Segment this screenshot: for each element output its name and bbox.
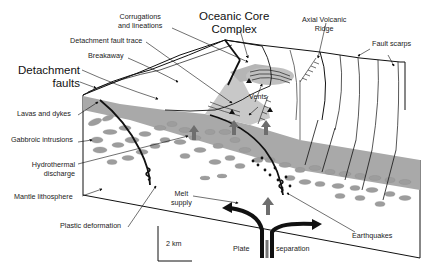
label-axial-volcanic-ridge: Axial Volcanic Ridge: [302, 16, 346, 33]
label-plastic-deformation: Plastic deformation: [60, 222, 121, 231]
label-gabbroic-intrusions: Gabbroic intrusions: [11, 136, 73, 145]
label-melt-supply: Melt supply: [171, 190, 192, 207]
label-corrugations: Corrugations and lineations: [118, 13, 162, 30]
label-detachment-faults: Detachment faults: [14, 64, 80, 90]
label-fault-scarps: Fault scarps: [372, 40, 411, 49]
label-corrugations-line2: and lineations: [118, 22, 162, 31]
scale-bar-label: 2 km: [166, 240, 182, 249]
label-occ-line2: Complex: [199, 23, 269, 36]
label-plate: Plate: [233, 245, 249, 254]
label-ms-line2: supply: [171, 199, 192, 208]
label-df-line1: Detachment: [14, 64, 80, 77]
label-hd-line2: discharge: [10, 170, 75, 179]
label-vents: Vents: [249, 93, 267, 102]
label-hydrothermal-discharge: Hydrothermal discharge: [10, 161, 75, 178]
geology-block-diagram: Corrugations and lineations Oceanic Core…: [0, 0, 421, 271]
label-detachment-fault-trace: Detachment fault trace: [70, 37, 142, 46]
label-breakaway: Breakaway: [88, 52, 124, 61]
label-separation: separation: [276, 245, 310, 254]
label-df-line2: faults: [14, 77, 80, 90]
label-occ-line1: Oceanic Core: [199, 10, 269, 23]
label-avr-line2: Ridge: [302, 25, 346, 34]
label-mantle-lithosphere: Mantle lithosphere: [14, 193, 73, 202]
label-oceanic-core-complex: Oceanic Core Complex: [199, 10, 269, 36]
label-earthquakes: Earthquakes: [352, 232, 392, 241]
label-lavas-and-dykes: Lavas and dykes: [17, 110, 71, 119]
